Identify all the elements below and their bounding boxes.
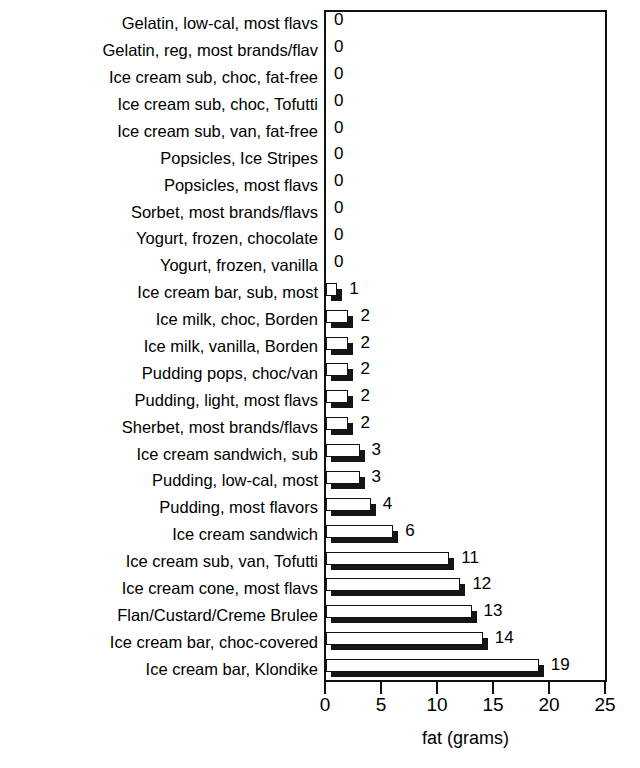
bars-container: 000000000012222233461112131419 [326,12,605,680]
bar-face [326,363,348,376]
bar-row: 19 [326,657,609,685]
bar-row: 3 [326,469,609,497]
bar-value-label: 4 [383,494,392,514]
category-label: Ice cream bar, choc-covered [0,632,318,652]
bar-row: 14 [326,630,609,658]
bar-face [326,390,348,403]
bar-row: 0 [326,173,609,201]
category-label: Ice milk, choc, Borden [0,309,318,329]
bar-value-label: 3 [372,467,381,487]
bar-value-label: 2 [360,306,369,326]
bar-face [326,578,460,591]
bar-value-label: 0 [334,144,343,164]
plot-area: 000000000012222233461112131419 [324,10,607,682]
bar-value-label: 0 [334,91,343,111]
bar-face [326,632,483,645]
category-label: Yogurt, frozen, vanilla [0,255,318,275]
category-label: Ice milk, vanilla, Borden [0,336,318,356]
bar-row: 4 [326,496,609,524]
bar-value-label: 0 [334,225,343,245]
bar-row: 0 [326,66,609,94]
bar-row: 3 [326,442,609,470]
bar-row: 12 [326,576,609,604]
category-label: Ice cream sandwich [0,524,318,544]
bar-row: 0 [326,120,609,148]
bar-value-label: 11 [461,548,479,568]
bar-value-label: 0 [334,10,343,30]
bar-value-label: 0 [334,252,343,272]
category-label: Ice cream sub, van, Tofutti [0,551,318,571]
category-label: Ice cream sub, van, fat-free [0,121,318,141]
x-axis-title: fat (grams) [324,728,607,749]
category-label: Pudding pops, choc/van [0,363,318,383]
bar-value-label: 0 [334,118,343,138]
bar-row: 2 [326,308,609,336]
bar-value-label: 2 [360,333,369,353]
x-tick-label: 15 [482,694,503,716]
bar-row: 0 [326,146,609,174]
category-axis-labels: Gelatin, low-cal, most flavsGelatin, reg… [0,10,318,682]
category-label: Gelatin, low-cal, most flavs [0,13,318,33]
bar-value-label: 2 [360,413,369,433]
bar-value-label: 0 [334,37,343,57]
bar-face [326,525,393,538]
category-label: Popsicles, Ice Stripes [0,148,318,168]
bar-face [326,283,337,296]
x-tick-label: 5 [376,694,387,716]
bar-row: 2 [326,388,609,416]
bar-face [326,310,348,323]
bar-value-label: 3 [372,440,381,460]
bar-row: 0 [326,93,609,121]
bar-face [326,498,371,511]
bar-value-label: 1 [349,279,358,299]
bar-face [326,471,360,484]
bar-row: 0 [326,227,609,255]
x-tick-mark [492,682,494,694]
bar-row: 0 [326,39,609,67]
category-label: Ice cream bar, sub, most [0,282,318,302]
bar-face [326,444,360,457]
bar-row: 2 [326,335,609,363]
category-label: Sorbet, most brands/flavs [0,202,318,222]
x-tick-mark [324,682,326,694]
bar-value-label: 0 [334,198,343,218]
chart-title: ICE CREAM ALTERNATIVES [0,0,330,5]
category-label: Pudding, most flavors [0,497,318,517]
x-tick-mark [380,682,382,694]
bar-row: 0 [326,200,609,228]
bar-value-label: 2 [360,359,369,379]
bar-face [326,659,539,672]
bar-value-label: 13 [484,601,503,621]
x-axis: 0510152025 [324,682,607,702]
category-label: Ice cream sub, choc, Tofutti [0,94,318,114]
bar-value-label: 19 [551,655,570,675]
category-label: Sherbet, most brands/flavs [0,417,318,437]
bar-value-label: 14 [495,628,514,648]
category-label: Yogurt, frozen, chocolate [0,228,318,248]
category-label: Ice cream sandwich, sub [0,444,318,464]
x-tick-mark [604,682,606,694]
category-label: Pudding, light, most flavs [0,390,318,410]
bar-row: 0 [326,12,609,40]
bar-face [326,417,348,430]
bar-row: 2 [326,361,609,389]
category-label: Popsicles, most flavs [0,175,318,195]
bar-face [326,552,449,565]
x-tick-mark [436,682,438,694]
x-tick-label: 20 [538,694,559,716]
category-label: Gelatin, reg, most brands/flav [0,40,318,60]
bar-row: 11 [326,550,609,578]
category-label: Ice cream cone, most flavs [0,578,318,598]
category-label: Ice cream bar, Klondike [0,659,318,679]
bar-value-label: 0 [334,171,343,191]
x-tick-label: 25 [594,694,615,716]
bar-chart: ICE CREAM ALTERNATIVES Gelatin, low-cal,… [0,0,640,768]
category-label: Flan/Custard/Creme Brulee [0,605,318,625]
bar-row: 1 [326,281,609,309]
bar-value-label: 2 [360,386,369,406]
bar-face [326,605,472,618]
category-label: Ice cream sub, choc, fat-free [0,67,318,87]
bar-row: 0 [326,254,609,282]
x-tick-label: 10 [426,694,447,716]
bar-value-label: 6 [405,521,414,541]
